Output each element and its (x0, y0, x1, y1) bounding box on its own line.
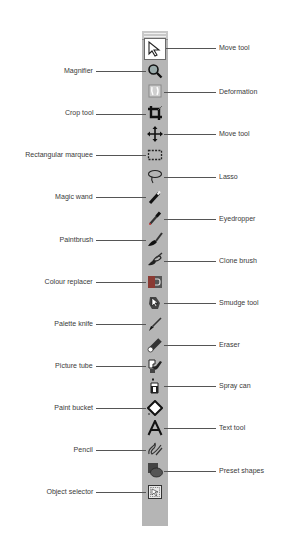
label-text-tool: Text tool (219, 423, 245, 432)
text-icon (147, 420, 163, 436)
pencil-button[interactable] (145, 439, 165, 459)
leader-line (96, 492, 146, 493)
palette-knife-icon (147, 316, 163, 332)
smudge-icon (147, 295, 163, 311)
label-lasso: Lasso (219, 172, 238, 181)
move-arrows-button[interactable] (145, 124, 165, 144)
magic-wand-button[interactable] (145, 187, 165, 207)
leader-line (164, 134, 216, 135)
picture-tube-icon (147, 358, 163, 374)
lasso-button[interactable] (145, 166, 165, 186)
crop-tool-button[interactable] (145, 103, 165, 123)
paint-bucket-button[interactable] (145, 398, 165, 418)
leader-line (96, 71, 146, 72)
clone-brush-button[interactable] (145, 250, 165, 270)
marquee-icon (147, 147, 163, 163)
picture-tube-button[interactable] (145, 356, 165, 376)
label-rectangular-marquee: Rectangular marquee (25, 150, 93, 159)
leader-line (164, 219, 216, 220)
eyedropper-button[interactable] (145, 208, 165, 228)
move-arrows-icon (147, 126, 163, 142)
move-tool-button[interactable] (144, 38, 166, 60)
magnifier-icon (147, 63, 163, 79)
magnifier-button[interactable] (145, 61, 165, 81)
label-preset-shapes: Preset shapes (219, 466, 264, 475)
label-paint-bucket: Paint bucket (54, 403, 93, 412)
leader-line (96, 197, 146, 198)
label-object-selector: Object selector (46, 487, 93, 496)
magic-wand-icon (147, 189, 163, 205)
leader-line (96, 366, 146, 367)
preset-shapes-button[interactable] (145, 460, 165, 480)
leader-line (96, 155, 146, 156)
label-magic-wand: Magic wand (55, 192, 93, 201)
leader-line (166, 48, 216, 49)
label-move-tool: Move tool (219, 43, 250, 52)
label-eyedropper: Eyedropper (219, 214, 255, 223)
text-tool-button[interactable] (145, 418, 165, 438)
label-pencil: Pencil (74, 445, 93, 454)
leader-line (96, 324, 146, 325)
rectangular-marquee-button[interactable] (145, 145, 165, 165)
label-smudge-tool: Smudge tool (219, 298, 259, 307)
smudge-tool-button[interactable] (145, 293, 165, 313)
paint-bucket-icon (147, 400, 163, 416)
label-colour-replacer: Colour replacer (45, 277, 93, 286)
label-spray-can: Spray can (219, 381, 251, 390)
label-paintbrush: Paintbrush (59, 235, 93, 244)
label-crop-tool: Crop tool (64, 108, 93, 117)
paintbrush-icon (147, 231, 163, 247)
leader-line (164, 177, 216, 178)
crop-icon (147, 105, 163, 121)
eyedropper-icon (147, 210, 163, 226)
leader-line (164, 386, 216, 387)
label-palette-knife: Palette knife (54, 319, 93, 328)
leader-line (164, 261, 216, 262)
label-magnifier: Magnifier (64, 66, 93, 75)
object-selector-button[interactable] (145, 482, 165, 502)
colour-replacer-button[interactable] (145, 272, 165, 292)
leader-line (96, 408, 146, 409)
clone-brush-icon (147, 252, 163, 268)
leader-line (164, 345, 216, 346)
leader-line (96, 240, 146, 241)
label-deformation: Deformation (219, 87, 257, 96)
leader-line (164, 303, 216, 304)
deformation-button[interactable] (145, 81, 165, 101)
palette-knife-button[interactable] (145, 314, 165, 334)
leader-line (96, 282, 146, 283)
pencil-icon (147, 441, 163, 457)
object-selector-icon (147, 484, 163, 500)
spray-can-icon (147, 378, 163, 394)
deformation-icon (147, 83, 163, 99)
leader-line (164, 471, 216, 472)
eraser-button[interactable] (145, 335, 165, 355)
lasso-icon (147, 168, 163, 184)
leader-line (164, 92, 216, 93)
label-eraser: Eraser (219, 340, 240, 349)
arrow-pointer-icon (147, 41, 163, 57)
label-move-tool-2: Move tool (219, 129, 250, 138)
colour-replacer-icon (147, 274, 163, 290)
label-picture-tube: Picture tube (55, 361, 93, 370)
eraser-icon (147, 337, 163, 353)
leader-line (96, 450, 146, 451)
label-clone-brush: Clone brush (219, 256, 257, 265)
spray-can-button[interactable] (145, 376, 165, 396)
preset-shapes-icon (147, 462, 163, 478)
leader-line (96, 114, 146, 115)
paintbrush-button[interactable] (145, 229, 165, 249)
leader-line (164, 428, 216, 429)
